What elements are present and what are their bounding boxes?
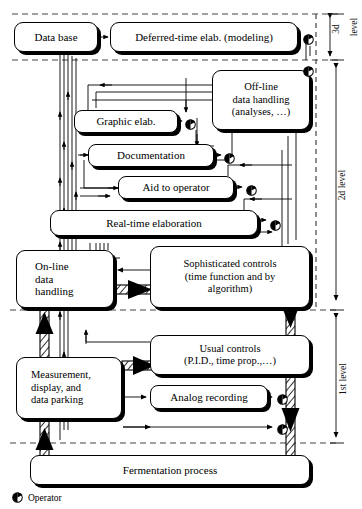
node-label: Sophisticated controls(time function and… xyxy=(179,258,280,295)
node-measurement-display-data-parking[interactable]: Measurement,display, anddata parking xyxy=(16,357,122,419)
level-label-2d: 2d level xyxy=(337,170,347,200)
operator-icon xyxy=(224,150,235,161)
node-off-line-data-handling[interactable]: Off-linedata handling(analyses, …) xyxy=(212,70,310,130)
node-label: Aid to operator xyxy=(138,181,213,194)
node-label: On-linedatahandling xyxy=(31,260,78,299)
node-label: Usual controls(P.I.D., time prop.,…) xyxy=(180,343,280,368)
node-label: Graphic elab. xyxy=(92,115,159,128)
level-label-1st: 1st level xyxy=(338,363,348,395)
level-label-3d-level: level xyxy=(349,18,359,36)
node-label: Deferred-time elab. (modeling) xyxy=(131,31,277,44)
node-sophisticated-controls[interactable]: Sophisticated controls(time function and… xyxy=(150,246,310,308)
node-label: Data base xyxy=(30,31,81,44)
node-analog-recording[interactable]: Analog recording xyxy=(150,385,268,409)
node-label: Off-linedata handling(analyses, …) xyxy=(228,81,294,118)
node-documentation[interactable]: Documentation xyxy=(88,144,214,167)
operator-icon xyxy=(270,217,281,228)
operator-icon xyxy=(303,31,314,42)
node-fermentation-process[interactable]: Fermentation process xyxy=(30,455,310,485)
node-label: Documentation xyxy=(113,149,189,162)
operator-icon xyxy=(12,492,23,503)
node-aid-to-operator[interactable]: Aid to operator xyxy=(118,176,234,199)
node-on-line-data-handling[interactable]: On-linedatahandling xyxy=(16,250,114,308)
operator-icon xyxy=(185,116,196,127)
operator-icon xyxy=(277,391,288,402)
level-label-3d: 3d xyxy=(331,24,341,34)
node-graphic-elab[interactable]: Graphic elab. xyxy=(74,110,178,133)
node-usual-controls[interactable]: Usual controls(P.I.D., time prop.,…) xyxy=(150,335,310,375)
legend-label: Operator xyxy=(28,493,62,503)
node-real-time-elaboration[interactable]: Real-time elaboration xyxy=(50,210,258,236)
node-data-base[interactable]: Data base xyxy=(14,22,98,52)
node-label: Real-time elaboration xyxy=(102,217,206,230)
operator-icon xyxy=(246,182,257,193)
operator-icon xyxy=(303,63,314,74)
node-label: Fermentation process xyxy=(119,464,221,477)
diagram-canvas: Data base Deferred-time elab. (modeling)… xyxy=(0,0,362,509)
legend: Operator xyxy=(12,492,62,503)
operator-icon xyxy=(277,421,288,432)
node-label: Measurement,display, anddata parking xyxy=(27,369,95,406)
node-deferred-time-elab[interactable]: Deferred-time elab. (modeling) xyxy=(110,22,298,52)
node-label: Analog recording xyxy=(166,391,251,404)
